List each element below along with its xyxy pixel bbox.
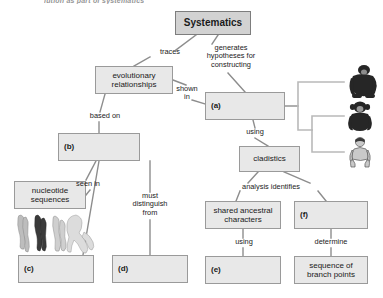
edge-seenin-nucleotide [86,190,90,195]
edge-analysis-f [318,191,326,201]
node-box-a[interactable]: (a) [205,92,285,120]
node-shared-ancestral-characters[interactable]: shared ancestral characters [205,201,281,229]
node-sequence-of-branch-points[interactable]: sequence of branch points [294,256,368,284]
node-box-e[interactable]: (e) [205,256,281,284]
edge-using-cladistics [255,138,268,146]
node-box-e-label: (e) [211,265,221,275]
edge-evorel-basedon [100,94,105,112]
edge-b-seenin [86,161,96,180]
taxon-figure-gorilla [344,64,380,98]
edge-traces-evorel [134,57,150,66]
taxon-figure-human [344,136,376,168]
node-nucleotide-sequences-label: nucleotide sequences [31,186,70,205]
homologous-limbs-illustration [14,212,96,254]
node-box-d-label: (d) [118,264,128,274]
node-cladistics[interactable]: cladistics [239,146,300,172]
node-box-b[interactable]: (b) [58,133,140,161]
node-evolutionary-relationships[interactable]: evolutionary relationships [95,66,173,94]
cladogram-node-inner [298,106,312,130]
edge-label-determine: determine [305,238,357,246]
node-box-f-label: (f) [300,210,308,220]
concept-map-figure: lution as part of systematics [0,0,383,298]
cut-off-heading: lution as part of systematics [44,0,144,4]
taxon-figure-chimpanzee [344,100,376,132]
cladogram-branches [298,82,344,152]
node-box-d[interactable]: (d) [112,255,188,283]
node-sequence-of-branch-points-label: sequence of branch points [307,261,355,280]
cladogram-branch-gorilla [298,82,344,106]
edge-analysis-shared [236,191,240,201]
gorilla-icon [344,64,380,98]
edge-label-using-shared: using [230,238,258,246]
node-systematics[interactable]: Systematics [175,11,251,35]
node-box-c-label: (c) [24,264,34,274]
edge-label-generates-hypotheses-for-constructing: generates hypotheses for constructing [194,44,268,69]
edge-label-shown-in: shown in [172,85,202,102]
node-box-a-label: (a) [211,101,221,111]
node-shared-ancestral-characters-label: shared ancestral characters [213,206,272,225]
node-box-f[interactable]: (f) [294,201,368,229]
edge-generates-a [228,73,245,92]
edge-label-based-on: based on [82,112,128,120]
node-cladistics-label: cladistics [253,154,285,164]
edge-label-seen-in: seen in [70,180,106,188]
human-icon [344,136,376,168]
edge-label-traces: traces [152,48,188,56]
node-box-b-label: (b) [64,142,74,152]
chimpanzee-icon [344,100,376,132]
cladogram-branch-human [312,130,344,152]
edge-label-must-distinguish-from: must distinguish from [122,192,178,217]
node-evolutionary-relationships-label: evolutionary relationships [112,71,157,90]
limb-bones-icon [14,212,96,254]
node-systematics-label: Systematics [184,18,242,28]
cladogram-branch-chimpanzee [312,116,344,130]
edge-label-using-cladistics: using [241,128,269,136]
node-box-c[interactable]: (c) [18,255,94,283]
edge-label-analysis-identifies: analysis identifies [226,183,316,191]
